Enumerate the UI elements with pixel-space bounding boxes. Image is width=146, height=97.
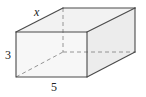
depth-label: x [34, 6, 39, 18]
front-face [16, 32, 87, 77]
width-label: 5 [51, 81, 57, 93]
rectangular-box-diagram [0, 0, 146, 97]
height-label: 3 [5, 49, 11, 61]
